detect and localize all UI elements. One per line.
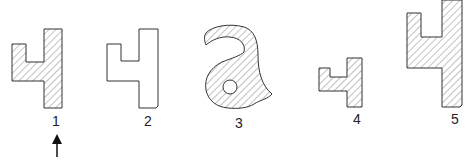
figure-1-shape bbox=[12, 29, 62, 108]
figure-3-shape bbox=[205, 25, 273, 108]
figure-1-label: 1 bbox=[52, 114, 60, 128]
figure-2-label: 2 bbox=[144, 114, 152, 128]
figure-3-hole bbox=[223, 80, 237, 94]
figure-4-shape bbox=[319, 58, 362, 107]
figure-3-label: 3 bbox=[235, 116, 243, 130]
figure-4-label: 4 bbox=[353, 112, 361, 126]
figure-2-shape bbox=[107, 29, 158, 108]
figure-5-label: 5 bbox=[451, 112, 459, 126]
figure-5-shape bbox=[407, 0, 462, 107]
up-arrow-icon bbox=[52, 134, 62, 157]
diagram-canvas bbox=[0, 0, 474, 160]
